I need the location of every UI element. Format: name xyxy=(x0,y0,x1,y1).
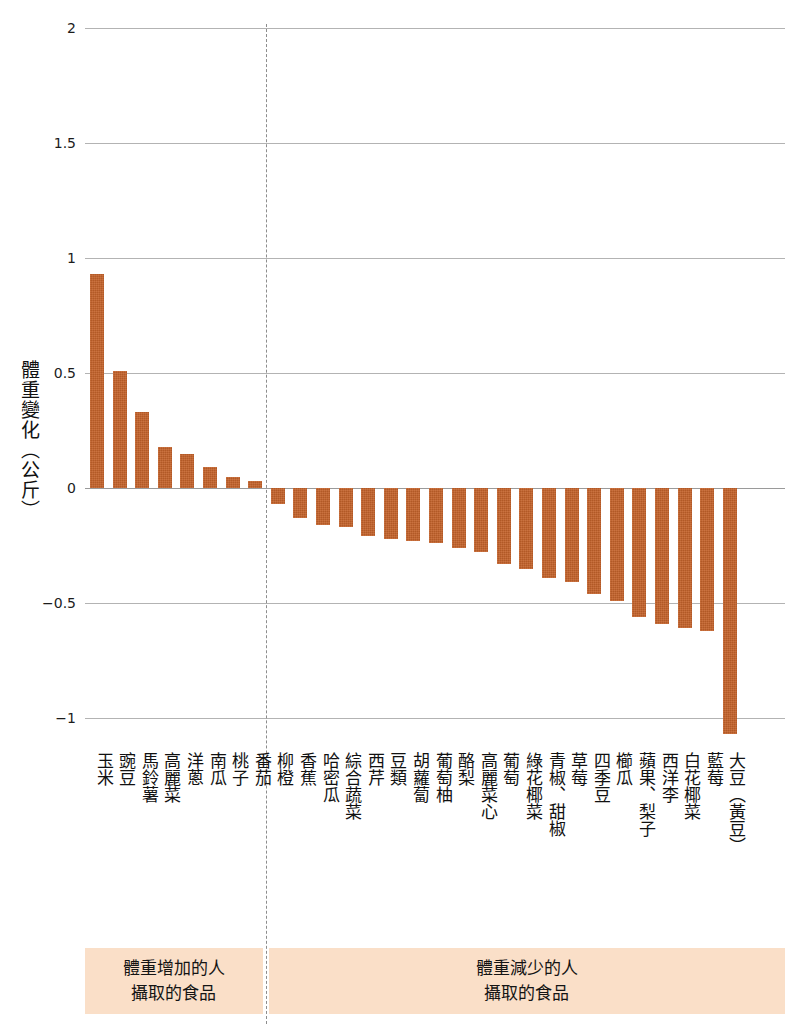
category-label: 高麗菜 xyxy=(159,752,180,803)
category-label: 柳橙 xyxy=(272,752,293,786)
bar xyxy=(700,488,714,631)
category-label: 葡萄 xyxy=(498,752,519,786)
category-label: 洋蔥 xyxy=(181,752,202,786)
category-label: 綠花椰菜 xyxy=(520,752,541,820)
category-label: 白花椰菜 xyxy=(679,752,700,820)
bar xyxy=(542,488,556,578)
bar xyxy=(316,488,330,525)
bar xyxy=(429,488,443,543)
bar xyxy=(587,488,601,594)
category-label: 豌豆 xyxy=(114,752,135,786)
bar xyxy=(497,488,511,564)
category-label: 馬鈴薯 xyxy=(136,752,157,803)
bar-series xyxy=(0,0,788,750)
category-label: 南瓜 xyxy=(204,752,225,786)
category-label: 蘋果、梨子 xyxy=(633,752,654,837)
bar xyxy=(226,477,240,489)
legend-left-line1: 體重增加的人 xyxy=(123,956,225,981)
category-label: 香蕉 xyxy=(294,752,315,786)
legend-right-line2: 攝取的食品 xyxy=(476,981,578,1006)
bar xyxy=(158,447,172,488)
bar xyxy=(339,488,353,527)
bar xyxy=(610,488,624,601)
legend-right-line1: 體重減少的人 xyxy=(476,956,578,981)
category-label: 櫛瓜 xyxy=(611,752,632,786)
bar xyxy=(90,274,104,488)
bar xyxy=(452,488,466,548)
category-label: 綜合蔬菜 xyxy=(340,752,361,820)
legend-bands: 體重增加的人 攝取的食品 體重減少的人 攝取的食品 xyxy=(0,948,788,1014)
bar xyxy=(632,488,646,617)
category-label: 玉米 xyxy=(91,752,112,786)
bar xyxy=(519,488,533,569)
category-label: 葡萄柚 xyxy=(430,752,451,803)
category-label: 酪梨 xyxy=(453,752,474,786)
category-label: 哈密瓜 xyxy=(317,752,338,803)
category-label: 西洋李 xyxy=(656,752,677,803)
chart-page: 21.510.50−0.5−1 體重變化（公斤） 玉米豌豆馬鈴薯高麗菜洋蔥南瓜桃… xyxy=(0,0,788,1033)
legend-left-line2: 攝取的食品 xyxy=(123,981,225,1006)
bar xyxy=(180,454,194,489)
category-label: 胡蘿蔔 xyxy=(407,752,428,803)
bar xyxy=(474,488,488,552)
category-label: 四季豆 xyxy=(588,752,609,803)
category-labels: 玉米豌豆馬鈴薯高麗菜洋蔥南瓜桃子番茄柳橙香蕉哈密瓜綜合蔬菜西芹豆類胡蘿蔔葡萄柚酪… xyxy=(0,752,788,932)
category-label: 桃子 xyxy=(227,752,248,786)
bar xyxy=(271,488,285,504)
category-label: 大豆（黃豆） xyxy=(724,752,745,854)
category-label: 草莓 xyxy=(566,752,587,786)
bar xyxy=(361,488,375,536)
bar xyxy=(723,488,737,734)
bar xyxy=(203,467,217,488)
category-label: 西芹 xyxy=(362,752,383,786)
bar xyxy=(135,412,149,488)
bar xyxy=(384,488,398,539)
legend-band-weight-loss: 體重減少的人 攝取的食品 xyxy=(269,948,786,1014)
category-label: 高麗菜心 xyxy=(475,752,496,820)
bar xyxy=(655,488,669,624)
bar xyxy=(293,488,307,518)
bar xyxy=(565,488,579,582)
category-label: 豆類 xyxy=(385,752,406,786)
bar xyxy=(406,488,420,541)
category-label: 青椒、甜椒 xyxy=(543,752,564,837)
bar xyxy=(113,371,127,488)
legend-band-weight-gain: 體重增加的人 攝取的食品 xyxy=(85,948,263,1014)
category-label: 藍莓 xyxy=(701,752,722,786)
bar xyxy=(678,488,692,628)
category-label: 番茄 xyxy=(249,752,270,786)
bar xyxy=(248,481,262,488)
y-axis-title: 體重變化（公斤） xyxy=(10,360,38,520)
plot-area: 21.510.50−0.5−1 xyxy=(0,0,788,750)
